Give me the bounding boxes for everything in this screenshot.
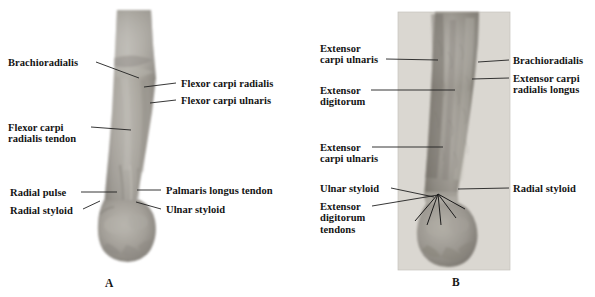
label-extensor-carpi-ulnaris-lower: Extensor carpi ulnaris xyxy=(320,142,378,165)
anatomy-figure: Brachioradialis Flexor carpi radialis Fl… xyxy=(0,0,595,297)
label-extensor-carpi-radialis-longus: Extensor carpi radialis longus xyxy=(513,73,580,96)
panel-letter-b: B xyxy=(452,276,460,288)
label-radial-styloid: Radial styloid xyxy=(10,205,73,216)
label-extensor-carpi-ulnaris-upper: Extensor carpi ulnaris xyxy=(320,43,378,66)
label-extensor-digitorum-tendons: Extensor digitorum tendons xyxy=(320,201,365,235)
panel-b: Extensor carpi ulnaris Extensor digitoru… xyxy=(298,0,595,297)
label-flexor-carpi-radialis: Flexor carpi radialis xyxy=(181,78,273,89)
label-radial-pulse: Radial pulse xyxy=(10,187,66,198)
forearm-anterior-photo xyxy=(0,0,298,297)
label-extensor-digitorum: Extensor digitorum xyxy=(320,85,365,108)
label-ulnar-styloid: Ulnar styloid xyxy=(166,204,225,215)
label-radial-styloid-posterior: Radial styloid xyxy=(513,183,576,194)
label-flexor-carpi-radialis-tendon: Flexor carpi radialis tendon xyxy=(8,122,76,145)
label-brachioradialis: Brachioradialis xyxy=(8,57,78,68)
panel-a: Brachioradialis Flexor carpi radialis Fl… xyxy=(0,0,298,297)
panel-letter-a: A xyxy=(105,277,113,289)
label-brachioradialis-posterior: Brachioradialis xyxy=(513,55,583,66)
label-palmaris-longus-tendon: Palmaris longus tendon xyxy=(166,185,273,196)
label-ulnar-styloid-posterior: Ulnar styloid xyxy=(320,183,379,194)
label-flexor-carpi-ulnaris: Flexor carpi ulnaris xyxy=(181,95,271,106)
